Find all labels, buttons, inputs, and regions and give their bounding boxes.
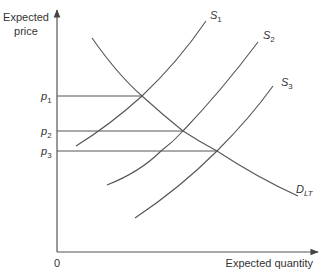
supply-demand-diagram: Expected price Expected quantity 0 p1 p2… — [0, 0, 327, 279]
p3-label: p3 — [40, 145, 52, 160]
origin-label: 0 — [54, 257, 60, 269]
y-axis-label-line2: price — [14, 25, 38, 37]
p2-label: p2 — [40, 125, 52, 140]
p1-label: p1 — [40, 90, 52, 105]
s1-label: S1 — [210, 9, 222, 24]
supply-curve-s3 — [135, 86, 273, 218]
s3-label: S3 — [281, 76, 293, 91]
y-axis-label-line1: Expected — [3, 11, 49, 23]
s2-label: S2 — [263, 29, 275, 44]
x-axis-label: Expected quantity — [226, 257, 314, 269]
demand-lt-label: DLT — [296, 183, 314, 198]
supply-curve-s2 — [107, 42, 258, 185]
